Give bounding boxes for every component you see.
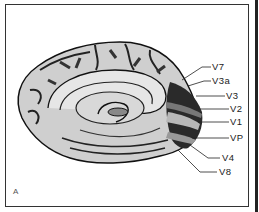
label-v2: V2 <box>230 104 243 114</box>
label-vp: VP <box>230 133 244 143</box>
label-v7: V7 <box>212 62 225 72</box>
label-v3a: V3a <box>212 76 230 86</box>
label-v8: V8 <box>219 167 232 177</box>
brain-illustration <box>0 0 259 212</box>
label-v1: V1 <box>230 117 243 127</box>
label-v4: V4 <box>222 153 235 163</box>
label-v3: V3 <box>226 91 239 101</box>
panel-label: A <box>13 187 18 196</box>
